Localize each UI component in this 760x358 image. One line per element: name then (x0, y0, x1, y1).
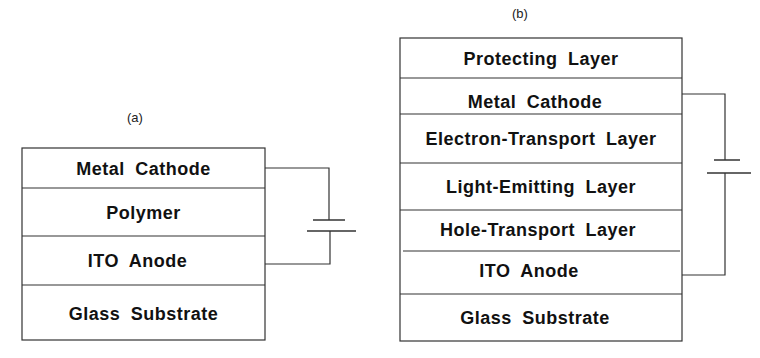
layer-electron-transport-b: Electron-Transport Layer (400, 116, 682, 163)
layer-ito-anode-b: ITO Anode (388, 252, 670, 290)
caption-b: (b) (512, 6, 528, 21)
layer-glass-substrate-a: Glass Substrate (22, 289, 265, 339)
layer-ito-anode-a: ITO Anode (16, 238, 259, 285)
layer-hole-transport-b: Hole-Transport Layer (397, 210, 679, 250)
caption-a: (a) (127, 110, 143, 125)
layer-protecting-b: Protecting Layer (400, 40, 682, 78)
layer-glass-substrate-b: Glass Substrate (394, 296, 676, 340)
layer-metal-cathode-b: Metal Cathode (394, 87, 676, 117)
layer-light-emitting-b: Light-Emitting Layer (400, 165, 682, 210)
wire-cathode-b (682, 94, 725, 160)
wire-anode-b (682, 173, 725, 275)
wire-anode-a (265, 231, 330, 264)
layer-metal-cathode-a: Metal Cathode (22, 150, 265, 188)
wire-cathode-a (265, 168, 329, 220)
layer-polymer-a: Polymer (22, 190, 265, 236)
